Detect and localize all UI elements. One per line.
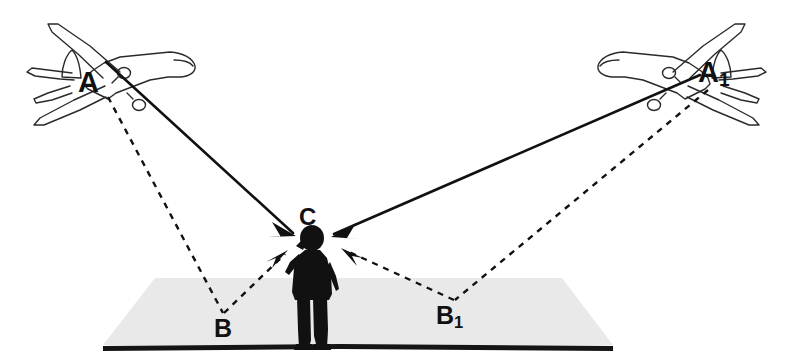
label-reflection-b1-subscript: 1: [454, 313, 463, 331]
label-aircraft-a: A: [78, 68, 99, 97]
direct-path-a-to-c: [106, 62, 293, 233]
label-listener-c: C: [299, 205, 316, 229]
airplane-outline-icon-right: [598, 24, 766, 125]
diagram-canvas: A A1 C B B1: [0, 0, 793, 364]
label-reflection-b1-base: B: [436, 301, 454, 329]
direct-path-a1-to-c: [334, 75, 700, 234]
direct-sound-paths: [106, 62, 700, 234]
ground-plane-icon: [103, 278, 613, 351]
label-aircraft-a1-base: A: [698, 56, 719, 88]
label-reflection-b: B: [214, 316, 232, 341]
label-aircraft-a1: A1: [698, 58, 730, 87]
incident-path-a1-to-b1: [455, 90, 708, 300]
diagram-svg: [0, 0, 793, 364]
airplane-outline-icon-left: [27, 24, 195, 125]
label-aircraft-a1-subscript: 1: [719, 69, 730, 90]
label-reflection-b1: B1: [436, 303, 463, 328]
